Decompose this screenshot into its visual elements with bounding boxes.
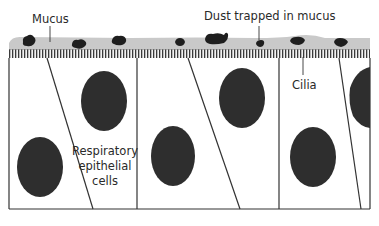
mucus-label: Mucus	[32, 12, 69, 26]
dust-particle-icon	[112, 36, 126, 46]
nucleus	[219, 68, 265, 128]
nucleus	[151, 126, 195, 186]
nucleus	[81, 71, 127, 131]
nucleus	[290, 127, 336, 187]
cells-label-line1: Respiratory	[72, 144, 138, 158]
cilia-band	[9, 49, 370, 58]
respiratory-epithelium-diagram: Mucus Dust trapped in mucus Cilia Respir…	[0, 0, 379, 226]
nucleus	[17, 137, 63, 197]
dust-label: Dust trapped in mucus	[204, 9, 335, 23]
nucleus	[349, 67, 370, 128]
cells-label-line3: cells	[92, 174, 118, 188]
cells-label-line2: epithelial	[78, 159, 131, 173]
mucus-layer	[9, 35, 370, 50]
cilia-label: Cilia	[292, 78, 317, 92]
